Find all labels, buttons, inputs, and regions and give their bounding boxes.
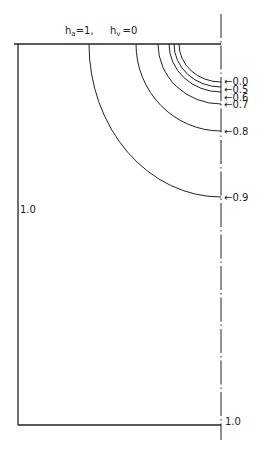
contour-0.0: [179, 44, 221, 82]
ha-label: ha=1,: [65, 25, 94, 38]
hv-label: hv=0: [110, 25, 137, 38]
bottom-axis-label: 1.0: [225, 416, 241, 427]
contour-label-0.8: ←0.8: [224, 126, 248, 137]
contour-labels: ←0.0 ←0.5 ←0.6 ←0.7 ←0.8 ←0.9: [224, 76, 248, 203]
contour-0.9: [89, 44, 221, 197]
contour-0.5: [174, 44, 221, 87]
left-edge-label: 1.0: [20, 204, 36, 215]
contour-0.8: [136, 44, 221, 131]
contour-0.7: [158, 44, 221, 104]
contour-diagram: ha=1, hv=0 ←0.0 ←0.5 ←0.6 ←0.7 ←0.8 ←0.9…: [0, 0, 266, 458]
contour-0.6: [169, 44, 221, 92]
contour-curves: [89, 44, 221, 197]
contour-label-0.9: ←0.9: [224, 192, 248, 203]
contour-label-0.7: ←0.7: [224, 99, 248, 110]
